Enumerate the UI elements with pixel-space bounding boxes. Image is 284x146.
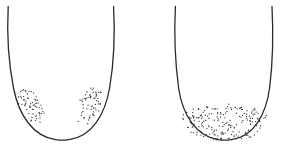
stipple-dot [212, 132, 213, 133]
stipple-dot [39, 114, 40, 115]
stipple-dot [35, 106, 36, 107]
stipple-dot [35, 96, 36, 97]
stipple-dot [90, 97, 91, 98]
stipple-dot [259, 120, 260, 121]
stipple-dot [216, 139, 217, 140]
stipple-dot [265, 117, 266, 118]
stipple-dot [89, 115, 90, 116]
stipple-dot [18, 103, 19, 104]
stipple-dot [242, 115, 243, 116]
stipple-dot [22, 90, 23, 91]
stipple-dot [221, 133, 222, 134]
stipple-dot [28, 113, 29, 114]
stipple-dot [38, 112, 39, 113]
stipple-dot [217, 112, 218, 113]
stipple-dot [201, 116, 202, 117]
diagram-svg [0, 0, 284, 146]
stipple-dot [245, 131, 246, 132]
stipple-dot [26, 109, 27, 110]
stipple-dot [41, 108, 42, 109]
stipple-dot [214, 134, 215, 135]
stipple-dot [251, 111, 252, 112]
stipple-dot [100, 92, 101, 93]
stipple-dot [201, 123, 202, 124]
stipple-dot [242, 120, 243, 121]
stipple-dot [86, 91, 87, 92]
stipple-dot [257, 131, 258, 132]
stipple-dot [81, 112, 82, 113]
stipple-dot [198, 117, 199, 118]
stipple-dot [266, 115, 267, 116]
stipple-dot [237, 136, 238, 137]
stipple-dot [29, 106, 30, 107]
stipple-dot [87, 123, 88, 124]
stipple-dot [259, 127, 260, 128]
stipple-dot [28, 91, 29, 92]
stipple-dot [41, 113, 42, 114]
stipple-dot [254, 109, 255, 110]
stipple-dot [230, 107, 231, 108]
stipple-dot [209, 126, 210, 127]
stipple-dot [200, 115, 201, 116]
stipple-dot [96, 94, 97, 95]
stipple-dot [183, 114, 184, 115]
stipple-dot [253, 114, 254, 115]
stipple-dot [95, 109, 96, 110]
canvas-background [0, 0, 284, 146]
stipple-dot [31, 120, 32, 121]
stipple-dot [196, 134, 197, 135]
stipple-dot [37, 99, 38, 100]
stipple-dot [203, 121, 204, 122]
stipple-dot [196, 132, 197, 133]
stipple-dot [193, 124, 194, 125]
stipple-dot [94, 107, 95, 108]
stipple-dot [217, 120, 218, 121]
stipple-dot [214, 120, 215, 121]
stipple-dot [249, 116, 250, 117]
stipple-dot [198, 108, 199, 109]
stipple-dot [40, 104, 41, 105]
stipple-dot [241, 138, 242, 139]
stipple-dot [226, 111, 227, 112]
stipple-dot [223, 134, 224, 135]
stipple-dot [246, 116, 247, 117]
stipple-dot [236, 124, 237, 125]
stipple-dot [244, 113, 245, 114]
stipple-dot [205, 120, 206, 121]
stipple-dot [25, 104, 26, 105]
stipple-dot [250, 123, 251, 124]
stipple-dot [92, 113, 93, 114]
stipple-dot [205, 115, 206, 116]
stipple-dot [222, 132, 223, 133]
stipple-dot [252, 121, 253, 122]
stipple-dot [223, 114, 224, 115]
stipple-dot [88, 119, 89, 120]
stipple-dot [250, 137, 251, 138]
stipple-dot [246, 118, 247, 119]
stipple-dot [182, 118, 183, 119]
stipple-dot [204, 110, 205, 111]
stipple-dot [21, 104, 22, 105]
stipple-dot [227, 130, 228, 131]
stipple-dot [225, 113, 226, 114]
stipple-dot [215, 108, 216, 109]
stipple-dot [193, 116, 194, 117]
stipple-dot [21, 97, 22, 98]
stipple-dot [200, 131, 201, 132]
stipple-dot [209, 133, 210, 134]
stipple-dot [253, 109, 254, 110]
stipple-dot [37, 103, 38, 104]
stipple-dot [98, 103, 99, 104]
stipple-dot [85, 98, 86, 99]
figure-canvas [0, 0, 284, 146]
stipple-dot [36, 106, 37, 107]
stipple-dot [193, 132, 194, 133]
stipple-dot [32, 113, 33, 114]
stipple-dot [194, 120, 195, 121]
stipple-dot [231, 134, 232, 135]
stipple-dot [225, 123, 226, 124]
stipple-dot [192, 115, 193, 116]
stipple-dot [89, 117, 90, 118]
stipple-dot [255, 111, 256, 112]
stipple-dot [18, 96, 19, 97]
